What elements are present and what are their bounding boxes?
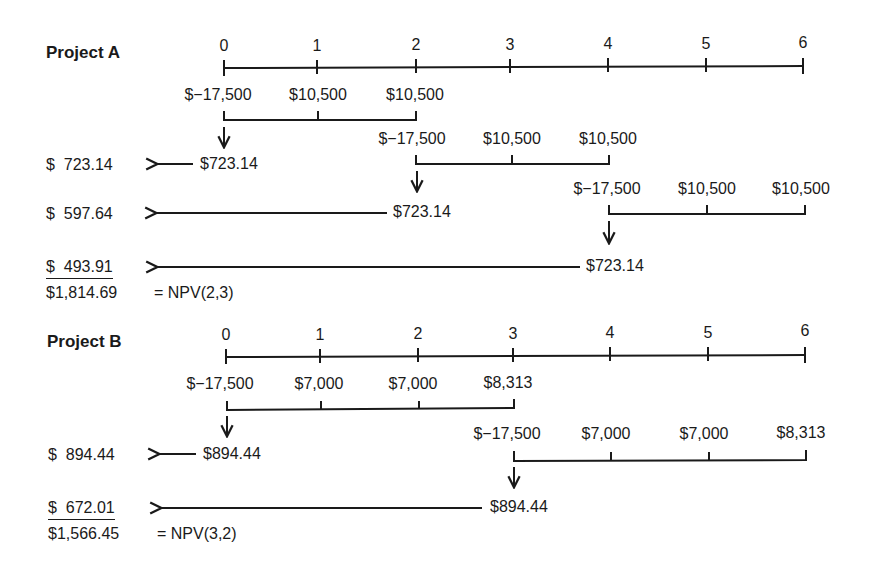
cash-flow: $−17,500 [573,181,640,197]
discounted-value: $ 597.64 [46,206,113,222]
period-label: 2 [412,37,421,53]
discounted-value: $ 493.91 [46,259,113,279]
period-label: 5 [704,325,713,341]
discounted-value: $ 672.01 [48,500,115,520]
cash-flow: $10,500 [289,87,347,103]
period-label: 1 [316,327,325,343]
project-a-bracket-1 [224,111,416,120]
chain-npv: $894.44 [490,499,548,515]
period-label: 3 [506,37,515,53]
npv-total-label: = NPV(3,2) [157,526,237,542]
cash-flow: $−17,500 [473,426,540,442]
cash-flow: $8,313 [777,425,826,441]
project-b-bracket-1 [227,399,514,410]
cash-flow: $10,500 [386,87,444,103]
period-label: 1 [313,38,322,54]
period-label: 0 [220,38,229,54]
cash-flow: $7,000 [389,376,438,392]
project-a-bracket-2 [416,155,609,164]
cash-flow: $7,000 [582,426,631,442]
chain-npv: $723.14 [393,204,451,220]
cash-flow: $7,000 [295,376,344,392]
period-label: 6 [801,323,810,339]
cash-flow: $10,500 [579,131,637,147]
chain-npv: $723.14 [200,156,258,172]
period-label: 2 [414,326,423,342]
project-a-bracket-3 [609,205,805,214]
period-label: 3 [509,326,518,342]
chain-npv: $894.44 [203,446,261,462]
cash-flow: $−17,500 [184,87,251,103]
cash-flow: $10,500 [483,131,541,147]
cash-flow: $−17,500 [378,131,445,147]
project-b-bracket-2 [514,450,806,461]
cash-flow: $7,000 [680,426,729,442]
project-b-timeline [226,347,805,364]
period-label: 0 [222,327,231,343]
project-a-title: Project A [46,44,120,61]
project-b-title: Project B [47,333,122,350]
period-label: 6 [799,35,808,51]
discounted-value: $ 723.14 [46,157,113,173]
npv-total: $1,566.45 [48,526,119,542]
cash-flow: $−17,500 [186,376,253,392]
npv-total-label: = NPV(2,3) [154,285,234,301]
cash-flow: $10,500 [772,181,830,197]
cash-flow: $10,500 [678,181,736,197]
project-a-timeline [224,58,803,76]
chain-npv: $723.14 [586,258,644,274]
cash-flow: $8,313 [484,375,533,391]
discounted-value: $ 894.44 [48,447,115,463]
period-label: 4 [604,36,613,52]
period-label: 4 [606,325,615,341]
npv-total: $1,814.69 [46,285,117,301]
period-label: 5 [702,36,711,52]
